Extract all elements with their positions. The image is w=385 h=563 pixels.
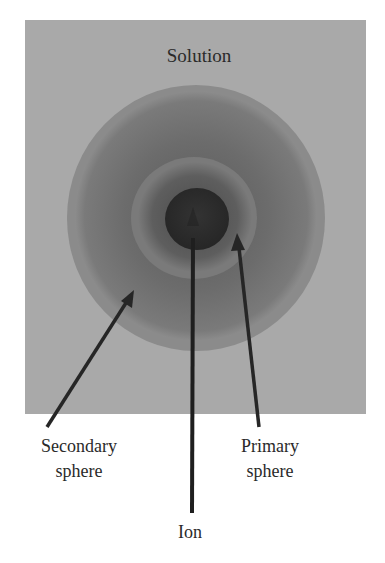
solution-label: Solution <box>167 45 232 66</box>
ion-pointer-line <box>192 238 193 513</box>
ion <box>165 188 229 250</box>
primary-sphere-label-line1: Primary <box>241 436 299 456</box>
secondary-sphere-label-line1: Secondary <box>41 436 117 456</box>
ion-label: Ion <box>178 522 202 542</box>
solvation-diagram: Solution Secondary sphere Primary sphere… <box>0 0 385 563</box>
secondary-sphere-label-line2: sphere <box>56 461 103 481</box>
primary-sphere-label-line2: sphere <box>247 461 294 481</box>
